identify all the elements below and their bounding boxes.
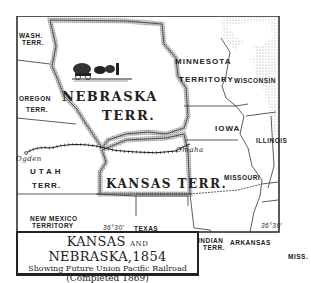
label-minnesota-2: TERRITORY (179, 76, 234, 84)
label-miss: MISS. (288, 254, 308, 261)
label-minnesota: MINNESOTA (175, 58, 231, 66)
label-ogden: Ogden (16, 156, 42, 163)
label-utah-2: TERR. (32, 182, 61, 190)
label-utah: UTAH (30, 168, 64, 176)
label-iowa: IOWA (215, 125, 240, 133)
label-arkansas: ARKANSAS (230, 240, 271, 247)
label-illinois: ILLINOIS (256, 138, 287, 145)
label-new-mexico: NEW MEXICOTERRITORY (30, 216, 78, 229)
label-kansas-terr: KANSAS TERR. (106, 178, 227, 190)
label-omaha: Omaha (176, 147, 204, 154)
map-completed-note: (Completed 1869) (18, 273, 197, 283)
ogden-marker (25, 152, 28, 155)
map-title: KANSAS AND NEBRASKA,1854 (18, 234, 197, 264)
label-36-30-east: 36°30' (261, 223, 282, 230)
label-oregon-terr: OREGONTERR. (19, 96, 51, 113)
label-nebraska-terr-2: TERR. (102, 109, 155, 122)
label-wisconsin: WISCONSIN (234, 78, 276, 85)
label-missouri: MISSOURI (224, 175, 260, 182)
label-indian-terr: INDIANTERR. (198, 238, 225, 251)
label-nebraska-terr: NEBRASKA (62, 90, 158, 103)
map-title-cartouche: KANSAS AND NEBRASKA,1854 Showing Future … (16, 231, 199, 276)
map-subtitle: Showing Future Union Pacific Railroad (18, 264, 197, 273)
label-wash-terr: WASH.TERR. (19, 33, 44, 46)
